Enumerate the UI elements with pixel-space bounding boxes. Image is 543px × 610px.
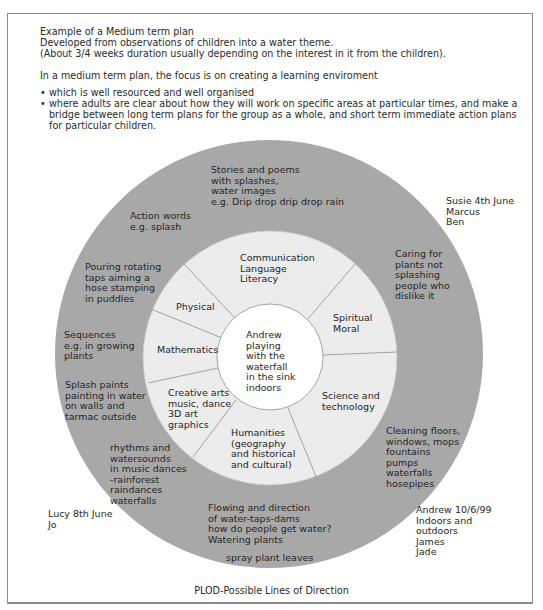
segment-communication: Communication Language Literacy xyxy=(240,253,315,285)
diagram-caption: PLOD-Possible Lines of Direction xyxy=(0,585,543,596)
segment-creative: Creative arts music, dance 3D art graphi… xyxy=(168,388,231,430)
observer-susie: Susie 4th June Marcus Ben xyxy=(446,196,514,228)
note-rhythms: rhythms and watersounds in music dances … xyxy=(110,443,187,507)
observer-lucy: Lucy 8th June Jo xyxy=(48,509,113,530)
note-sequences: Sequences e.g. in growing plants xyxy=(64,330,135,362)
observer-andrew: Andrew 10/6/99 Indoors and outdoors Jame… xyxy=(416,505,492,558)
segment-science: Science and technology xyxy=(322,391,380,412)
segment-mathematics: Mathematics xyxy=(157,345,218,356)
segment-humanities: Humanities (geography and historical and… xyxy=(231,428,295,470)
note-pouring: Pouring rotating taps aiming a hose stam… xyxy=(85,262,161,304)
note-splash-paints: Splash paints painting in water on walls… xyxy=(65,380,146,422)
center-text: Andrew playing with the waterfall in the… xyxy=(246,330,295,394)
note-action-words: Action words e.g. splash xyxy=(130,211,191,232)
note-spray: spray plant leaves xyxy=(226,553,313,564)
note-caring: Caring for plants not splashing people w… xyxy=(395,249,450,302)
segment-physical: Physical xyxy=(176,302,215,313)
note-flowing: Flowing and direction of water-taps-dams… xyxy=(208,503,331,545)
segment-spiritual: Spiritual Moral xyxy=(333,313,372,334)
note-stories: Stories and poems with splashes, water i… xyxy=(211,165,344,207)
note-cleaning: Cleaning floors, windows, mops fountains… xyxy=(386,426,460,490)
